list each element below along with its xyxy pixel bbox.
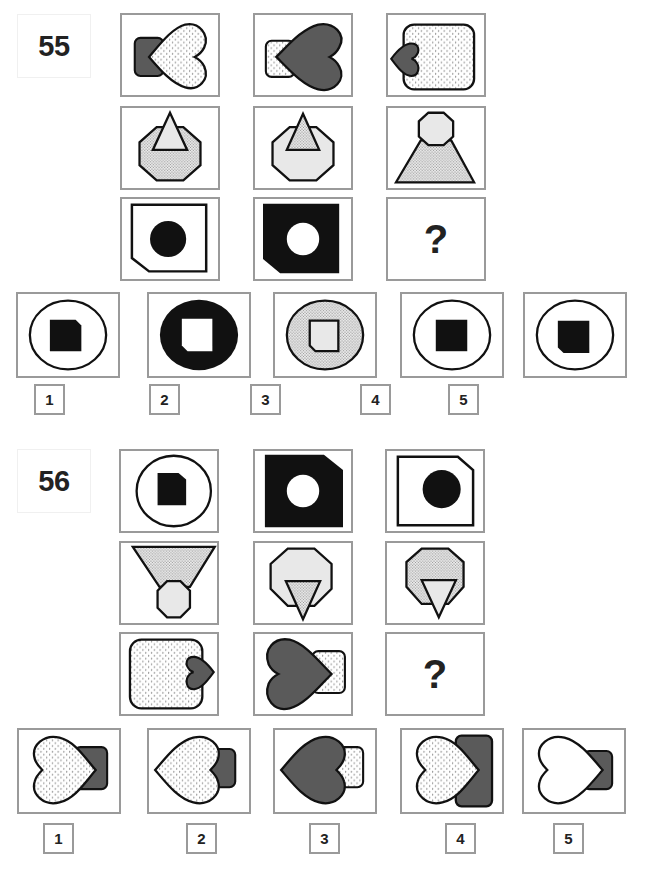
missing-cell: ? [386,197,486,281]
heart-over-rect-icon [122,15,218,95]
matrix-cell [119,449,219,533]
option-label-3[interactable]: 3 [250,384,281,415]
heart-over-rect-icon [149,730,249,812]
matrix-cell [120,106,220,190]
matrix-cell [119,541,219,625]
answer-option-5[interactable] [522,728,626,814]
question-mark: ? [388,199,484,279]
matrix-cell [386,13,486,97]
circle-square-icon [275,294,375,376]
clipped-square-circle-icon [387,451,483,531]
missing-cell: ? [385,632,485,716]
clipped-square-circle-icon [255,451,351,531]
trapezoid-octagon-icon [121,543,217,623]
problem-number: 56 [17,449,91,513]
matrix-cell [120,197,220,281]
matrix-cell [253,632,353,716]
circle-square-icon [121,451,217,531]
heart-and-rounded-square-icon [388,15,484,95]
answer-option-4[interactable] [400,292,504,378]
octagon-triangle-icon [122,108,218,188]
heart-over-rect-icon [255,15,351,95]
option-label-5[interactable]: 5 [448,384,479,415]
answer-option-1[interactable] [16,292,120,378]
heart-over-rect-icon [275,730,375,812]
octagon-trapezoid-icon [388,108,484,188]
matrix-cell [253,197,353,281]
matrix-cell [120,13,220,97]
answer-option-2[interactable] [147,728,251,814]
octagon-triangle-icon [255,543,351,623]
matrix-cell [253,541,353,625]
matrix-cell [385,449,485,533]
octagon-triangle-icon [387,543,483,623]
clipped-square-circle-icon [255,199,351,279]
matrix-cell [119,632,219,716]
matrix-cell [386,106,486,190]
option-label-3[interactable]: 3 [309,823,340,854]
option-label-2[interactable]: 2 [149,384,180,415]
answer-option-5[interactable] [523,292,627,378]
heart-over-rect-icon [19,730,119,812]
heart-over-rect-icon [524,730,624,812]
circle-square-icon [18,294,118,376]
problem-number: 55 [17,14,91,78]
circle-square-icon [402,294,502,376]
answer-option-3[interactable] [273,292,377,378]
answer-option-1[interactable] [17,728,121,814]
option-label-5[interactable]: 5 [553,823,584,854]
option-label-4[interactable]: 4 [445,823,476,854]
matrix-cell [253,449,353,533]
answer-option-3[interactable] [273,728,377,814]
octagon-triangle-icon [255,108,351,188]
clipped-square-circle-icon [122,199,218,279]
rounded-square-heart-icon [121,634,217,714]
heart-over-rect-icon [255,634,351,714]
heart-over-rect-icon [402,730,502,812]
matrix-cell [253,13,353,97]
answer-option-2[interactable] [147,292,251,378]
answer-option-4[interactable] [400,728,504,814]
option-label-1[interactable]: 1 [34,384,65,415]
option-label-4[interactable]: 4 [360,384,391,415]
circle-square-icon [525,294,625,376]
option-label-2[interactable]: 2 [186,823,217,854]
matrix-cell [253,106,353,190]
matrix-cell [385,541,485,625]
circle-square-icon [149,294,249,376]
question-mark: ? [387,634,483,714]
option-label-1[interactable]: 1 [43,823,74,854]
